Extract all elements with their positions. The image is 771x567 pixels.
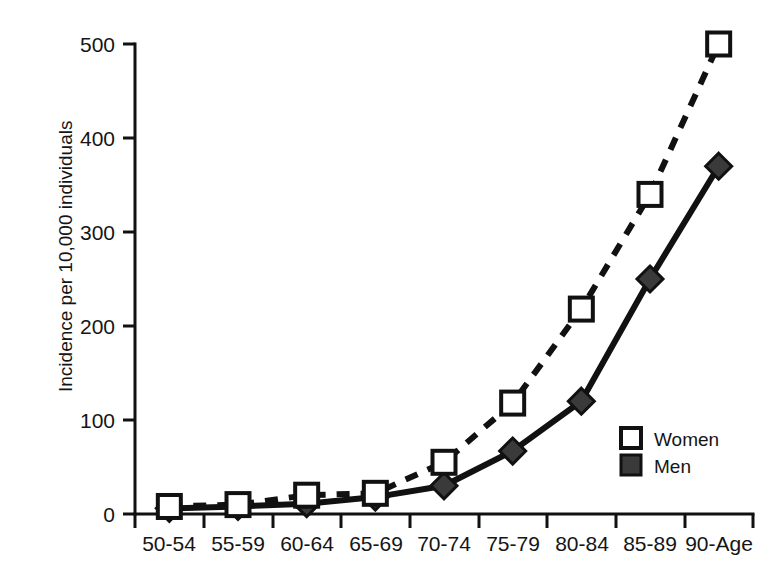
- data-point-women-85-89: [639, 183, 662, 206]
- x-tick-label-85-89: 85-89: [623, 532, 677, 555]
- y-tick-label-500: 500: [80, 33, 115, 56]
- x-tick-label-80-84: 80-84: [555, 532, 609, 555]
- legend-label-men: Men: [654, 456, 691, 477]
- data-point-women-60-64: [295, 484, 318, 507]
- y-tick-label-100: 100: [80, 409, 115, 432]
- x-tick-label-55-59: 55-59: [211, 532, 265, 555]
- x-tick-label-75-79: 75-79: [486, 532, 540, 555]
- y-tick-label-200: 200: [80, 315, 115, 338]
- x-tick-label-65-69: 65-69: [349, 532, 403, 555]
- data-point-women-80-84: [570, 298, 593, 321]
- data-point-women-75-79: [501, 392, 524, 415]
- data-point-women-90-Age: [707, 33, 730, 56]
- data-point-women-55-59: [227, 493, 250, 516]
- data-point-women-65-69: [364, 482, 387, 505]
- data-point-women-70-74: [433, 451, 456, 474]
- x-tick-label-90-Age: 90-Age: [685, 532, 753, 555]
- y-tick-label-400: 400: [80, 127, 115, 150]
- x-tick-label-70-74: 70-74: [417, 532, 471, 555]
- data-point-women-50-54: [158, 495, 181, 518]
- legend-swatch-men-icon: [621, 455, 641, 475]
- x-tick-label-50-54: 50-54: [142, 532, 196, 555]
- legend-label-women: Women: [654, 429, 719, 450]
- legend-swatch-women-icon: [621, 428, 641, 448]
- x-tick-label-60-64: 60-64: [280, 532, 334, 555]
- incidence-by-age-chart: Incidence per 10,000 individuals 500 400…: [0, 0, 771, 567]
- x-axis-tick-labels: 50-54 55-59 60-64 65-69 70-74 75-79 80-8…: [142, 532, 753, 555]
- y-tick-label-300: 300: [80, 221, 115, 244]
- y-axis-title: Incidence per 10,000 individuals: [55, 121, 76, 392]
- chart-canvas: Incidence per 10,000 individuals 500 400…: [0, 0, 771, 567]
- y-tick-label-0: 0: [103, 503, 115, 526]
